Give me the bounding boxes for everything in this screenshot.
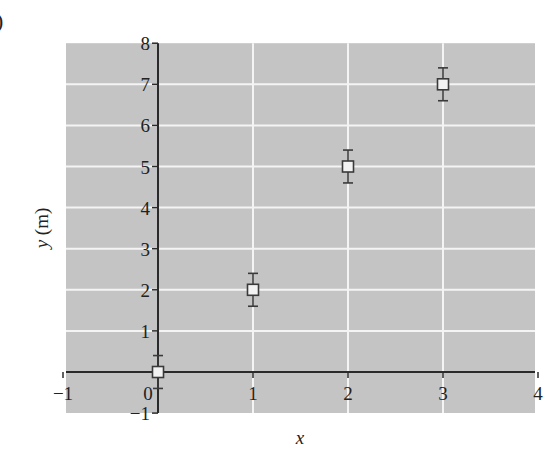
y-tick-label: −1 xyxy=(130,403,150,424)
y-tick-label: 6 xyxy=(141,115,151,136)
square-marker xyxy=(438,79,449,90)
panel-label: ) xyxy=(0,8,3,33)
y-axis-label: y (m) xyxy=(31,208,53,251)
y-tick-label: 8 xyxy=(141,33,151,54)
y-tick-label: 2 xyxy=(141,280,151,301)
scatter-chart: ) −112345678−101234 x y (m) xyxy=(0,0,551,462)
square-marker xyxy=(153,367,164,378)
x-axis-label: x xyxy=(295,427,305,448)
y-tick-label: 7 xyxy=(141,74,151,95)
x-tick-label: −1 xyxy=(53,383,73,404)
y-tick-label: 3 xyxy=(141,239,151,260)
x-tick-label: 0 xyxy=(143,383,153,404)
plot-area xyxy=(66,43,535,413)
y-tick-label: 1 xyxy=(141,321,151,342)
x-tick-label: 3 xyxy=(438,383,448,404)
y-tick-label: 5 xyxy=(141,157,151,178)
square-marker xyxy=(343,161,354,172)
square-marker xyxy=(248,284,259,295)
y-tick-label: 4 xyxy=(141,198,151,219)
x-tick-label: 4 xyxy=(533,383,543,404)
x-tick-label: 1 xyxy=(248,383,258,404)
x-tick-label: 2 xyxy=(343,383,353,404)
